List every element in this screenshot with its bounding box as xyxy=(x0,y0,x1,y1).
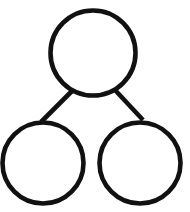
node-right-part-circle[interactable] xyxy=(100,123,181,204)
node-left-part-circle[interactable] xyxy=(3,123,84,204)
number-bond-diagram xyxy=(0,0,190,212)
link-whole-to-left-part xyxy=(41,91,72,122)
node-whole-circle[interactable] xyxy=(51,11,136,96)
link-whole-to-right-part xyxy=(115,90,143,120)
diagram-canvas-svg xyxy=(0,0,190,212)
node-group xyxy=(3,11,181,204)
